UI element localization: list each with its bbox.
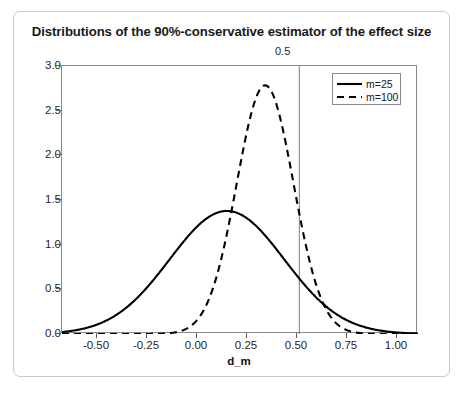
- legend: m=25 m=100: [332, 73, 401, 105]
- legend-item-m100: m=100: [336, 90, 398, 104]
- density-curve-m25: [62, 211, 418, 334]
- x-tick-label: 1.00: [366, 339, 426, 351]
- density-curve-m100: [62, 85, 418, 334]
- legend-label: m=100: [366, 91, 398, 103]
- legend-item-m25: m=25: [336, 77, 393, 91]
- plot-area: [61, 65, 417, 333]
- legend-label: m=25: [366, 78, 393, 90]
- x-axis-label: d_m: [61, 355, 417, 367]
- dashed-line-icon: [336, 92, 363, 102]
- solid-line-icon: [336, 79, 363, 89]
- plot-canvas: [62, 66, 418, 334]
- figure-root: Distributions of the 90%-conservative es…: [0, 0, 465, 394]
